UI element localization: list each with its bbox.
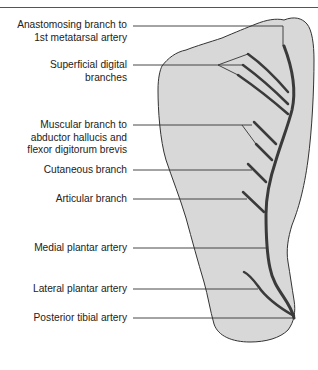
- label-line: Articular branch: [56, 193, 127, 206]
- label-line: Anastomosing branch to: [17, 19, 127, 32]
- label-line: Cutaneous branch: [44, 164, 127, 177]
- label-line: Lateral plantar artery: [33, 283, 127, 296]
- label-muscular-branch: Muscular branch to abductor hallucis and…: [27, 119, 127, 157]
- label-line: flexor digitorum brevis: [27, 144, 127, 157]
- label-articular-branch: Articular branch: [56, 193, 127, 206]
- label-line: Muscular branch to: [27, 119, 127, 132]
- label-line: Posterior tibial artery: [34, 312, 127, 325]
- label-posterior-tibial-artery: Posterior tibial artery: [34, 312, 127, 325]
- label-line: Superficial digital: [50, 59, 127, 72]
- label-anastomosing-branch: Anastomosing branch to 1st metatarsal ar…: [17, 19, 127, 44]
- label-line: Medial plantar artery: [34, 242, 127, 255]
- label-line: abductor hallucis and: [27, 132, 127, 145]
- label-medial-plantar-artery: Medial plantar artery: [34, 242, 127, 255]
- label-cutaneous-branch: Cutaneous branch: [44, 164, 127, 177]
- label-line: 1st metatarsal artery: [17, 32, 127, 45]
- label-line: branches: [50, 72, 127, 85]
- label-lateral-plantar-artery: Lateral plantar artery: [33, 283, 127, 296]
- label-superficial-digital-branches: Superficial digital branches: [50, 59, 127, 84]
